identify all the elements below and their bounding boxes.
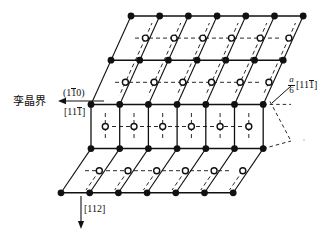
burgers-direction-text: [111] <box>296 80 317 90</box>
overbar-1: 1 <box>71 88 76 98</box>
direction-112-label: [112] <box>84 204 105 214</box>
figure-background <box>0 0 332 237</box>
plane-110-label: (110) <box>63 88 85 98</box>
burgers-fraction: a 6 <box>288 75 295 95</box>
overbar-1: 1 <box>309 80 314 90</box>
direction-11m1-label: [111] <box>64 107 85 117</box>
overbar-1: 1 <box>77 107 82 117</box>
burgers-denominator: 6 <box>288 86 295 95</box>
burgers-numerator: a <box>288 75 295 84</box>
twin-boundary-label: 孪晶界 <box>13 96 46 107</box>
scan-speck <box>303 139 304 140</box>
burgers-vector-label: a 6 [111] <box>288 75 317 95</box>
lattice-diagram <box>0 0 332 237</box>
